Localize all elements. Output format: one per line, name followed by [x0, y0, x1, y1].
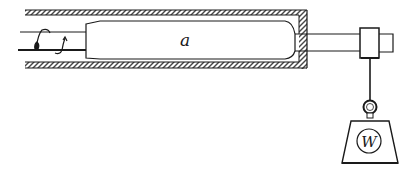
weight-label-w: W: [361, 133, 378, 151]
tube-bottom-wall: [25, 62, 307, 68]
diagram-canvas: a W: [0, 0, 416, 174]
collar: [360, 28, 379, 58]
body-label-a: a: [180, 30, 190, 50]
cylinder-body-a: [86, 21, 295, 59]
left-wire: [18, 32, 86, 50]
ring: [364, 101, 377, 119]
